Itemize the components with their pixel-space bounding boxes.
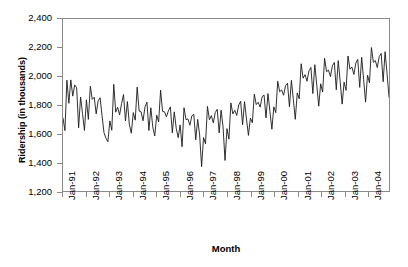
x-tick-mark (86, 192, 87, 197)
y-tick-mark (57, 76, 62, 77)
ridership-line-series (63, 19, 389, 191)
x-tick-mark (368, 192, 369, 197)
x-tick-label: Jan-02 (325, 171, 336, 200)
x-tick-mark (109, 192, 110, 197)
x-tick-mark (227, 192, 228, 197)
ridership-time-series-chart: Ridership (in thousands) 2,4002,2002,000… (0, 0, 408, 267)
y-axis-tick-labels: 2,4002,2002,0001,8001,6001,4001,200 (10, 0, 52, 267)
x-tick-label: Jan-97 (207, 171, 218, 200)
x-tick-mark (180, 192, 181, 197)
x-tick-label: Jan-92 (90, 171, 101, 200)
y-tick-mark (57, 105, 62, 106)
x-tick-label: Jan-95 (160, 171, 171, 200)
y-tick-label: 2,000 (12, 71, 52, 81)
y-tick-label: 2,400 (12, 13, 52, 23)
x-tick-mark (345, 192, 346, 197)
y-tick-mark (57, 134, 62, 135)
x-tick-mark (298, 192, 299, 197)
y-tick-label: 1,800 (12, 100, 52, 110)
x-tick-mark (251, 192, 252, 197)
x-tick-mark (156, 192, 157, 197)
y-tick-label: 1,200 (12, 187, 52, 197)
x-tick-mark (203, 192, 204, 197)
y-tick-label: 2,200 (12, 42, 52, 52)
y-tick-mark (57, 47, 62, 48)
y-tick-mark (57, 163, 62, 164)
x-tick-mark (321, 192, 322, 197)
x-tick-label: Jan-98 (231, 171, 242, 200)
x-tick-label: Jan-93 (113, 171, 124, 200)
x-tick-label: Jan-94 (137, 171, 148, 200)
x-axis-title: Month (62, 243, 390, 254)
x-tick-mark (274, 192, 275, 197)
x-tick-label: Jan-03 (349, 171, 360, 200)
x-tick-label: Jan-04 (372, 171, 383, 200)
plot-area (62, 18, 390, 192)
y-tick-label: 1,400 (12, 158, 52, 168)
y-tick-mark (57, 18, 62, 19)
x-tick-label: Jan-91 (66, 171, 77, 200)
x-tick-label: Jan-99 (255, 171, 266, 200)
x-tick-label: Jan-00 (278, 171, 289, 200)
y-tick-label: 1,600 (12, 129, 52, 139)
x-tick-mark (62, 192, 63, 197)
x-tick-label: Jan-96 (184, 171, 195, 200)
x-tick-mark (133, 192, 134, 197)
x-tick-label: Jan-01 (302, 171, 313, 200)
